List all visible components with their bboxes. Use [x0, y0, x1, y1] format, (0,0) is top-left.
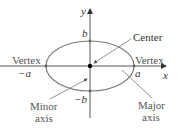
center-label: Center	[133, 31, 163, 43]
a-label: a	[135, 67, 141, 79]
neg-a-label: −a	[18, 67, 31, 79]
minor-axis-label-line1: Minor	[30, 100, 58, 112]
vertex-left-label: Vertex	[12, 54, 41, 66]
major-axis-label-line2: axis	[142, 111, 160, 123]
b-label: b	[82, 27, 88, 39]
x-axis-label: x	[162, 69, 168, 81]
ellipse-diagram: y x b −b −a a Center Vertex Vertex Minor…	[0, 0, 180, 135]
neg-b-point	[89, 90, 92, 93]
y-axis-label: y	[80, 5, 86, 17]
major-axis-label-line1: Major	[138, 99, 165, 111]
center-point	[88, 64, 92, 68]
vertex-right-label: Vertex	[135, 54, 164, 66]
minor-axis-label-line2: axis	[35, 112, 53, 124]
b-point	[89, 40, 92, 43]
vertex-left-point	[45, 65, 48, 68]
ellipse-diagram-svg: y x b −b −a a Center Vertex Vertex Minor…	[0, 0, 180, 135]
neg-b-label: −b	[74, 93, 87, 105]
